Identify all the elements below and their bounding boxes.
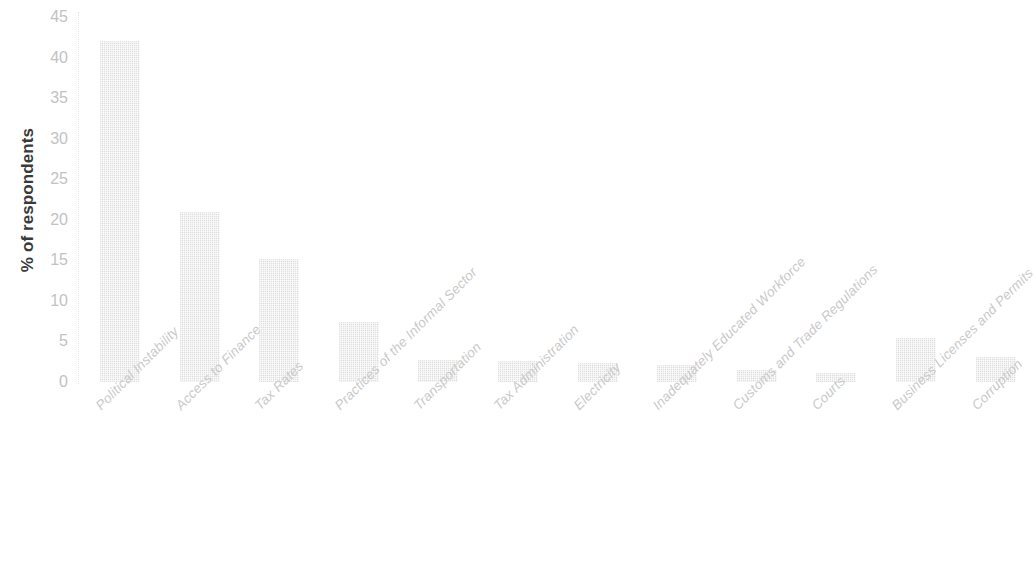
bar	[180, 212, 220, 382]
bar	[976, 357, 1016, 382]
y-axis-tick-label: 40	[26, 50, 68, 66]
y-axis-tick-label: 25	[26, 171, 68, 187]
bar	[418, 360, 458, 382]
y-axis-tick-label: 5	[26, 333, 68, 349]
bar	[498, 361, 538, 382]
bar	[339, 322, 379, 382]
y-axis-tick-label: 15	[26, 252, 68, 268]
y-axis-tick-label: 0	[26, 374, 68, 390]
y-axis-tick-label: 20	[26, 212, 68, 228]
bar	[737, 370, 777, 382]
y-axis-line	[78, 12, 79, 384]
bar	[657, 365, 697, 382]
bar	[100, 41, 140, 382]
bar	[896, 338, 936, 382]
bar	[578, 363, 618, 382]
y-axis-tick-label: 45	[26, 9, 68, 25]
y-axis-tick-labels: 454035302520151050	[20, 0, 68, 570]
y-axis-tick-label: 10	[26, 293, 68, 309]
bar	[816, 373, 856, 382]
bar	[259, 259, 299, 382]
y-axis-tick-label: 35	[26, 90, 68, 106]
y-axis-tick-label: 30	[26, 131, 68, 147]
plot-area	[78, 10, 979, 382]
